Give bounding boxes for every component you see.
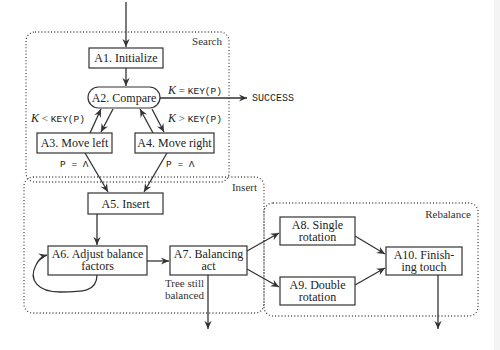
node-a7-balancing-act: A7. Balancing act xyxy=(170,246,247,275)
label-k-greater-key: K > KEY(P) xyxy=(167,111,222,125)
node-a1-label: A1. Initialize xyxy=(94,51,157,65)
node-a1-initialize: A1. Initialize xyxy=(89,48,163,68)
edge-a7-to-a8 xyxy=(247,233,279,251)
node-a6-adjust-balance-factors: A6. Adjust balance factors xyxy=(48,246,147,275)
edge-a2-to-a4 xyxy=(152,109,164,132)
key-p-term: KEY(P) xyxy=(188,114,222,125)
edge-a3-to-a2 xyxy=(90,109,101,133)
node-a9-double-rotation: A9. Double rotation xyxy=(280,277,355,305)
node-a8-single-rotation: A8. Single rotation xyxy=(280,217,355,245)
rebalance-region-label: Rebalance xyxy=(425,208,471,220)
label-k-less-key: K < KEY(P) xyxy=(30,111,85,125)
label-tree-still-balanced-line2: balanced xyxy=(165,289,205,301)
key-p-term: KEY(P) xyxy=(188,86,222,97)
node-a7-label-line2: act xyxy=(202,259,217,273)
node-a3-move-left: A3. Move left xyxy=(37,133,112,153)
avl-insertion-flowchart: Search Insert Rebalance K = KEY(P) SUCCE… xyxy=(0,0,500,350)
node-a2-compare: A2. Compare xyxy=(88,87,160,108)
node-a6-label-line2: factors xyxy=(81,259,114,273)
node-a3-label: A3. Move left xyxy=(41,136,109,150)
label-k-equals-key: K = KEY(P) xyxy=(167,83,222,97)
label-p-null-left: P = Λ xyxy=(60,159,89,170)
edge-a2-to-a3 xyxy=(101,109,113,132)
edge-a4-to-a5 xyxy=(144,153,167,192)
edge-a4-to-a2 xyxy=(140,109,153,133)
success-label: SUCCESS xyxy=(252,93,294,104)
node-a10-label-line2: ing touch xyxy=(402,260,447,274)
label-tree-still-balanced-line1: Tree still xyxy=(165,277,204,289)
node-a5-insert: A5. Insert xyxy=(88,193,163,214)
edge-a7-to-a9 xyxy=(247,269,279,287)
edge-a9-to-a10 xyxy=(355,268,385,285)
node-a8-label-line2: rotation xyxy=(299,230,336,244)
key-p-term: KEY(P) xyxy=(51,114,85,125)
page-edge-shade xyxy=(494,0,500,350)
node-a9-label-line2: rotation xyxy=(299,290,336,304)
node-a4-move-right: A4. Move right xyxy=(135,133,214,153)
equals-operator: = xyxy=(176,84,188,96)
less-than-operator: < xyxy=(39,112,51,124)
label-p-null-right: P = Λ xyxy=(166,159,195,170)
node-a4-label: A4. Move right xyxy=(137,136,212,150)
greater-than-operator: > xyxy=(176,112,188,124)
edge-a8-to-a10 xyxy=(355,236,385,254)
node-a2-label: A2. Compare xyxy=(92,91,157,105)
node-a10-finishing-touch: A10. Finish- ing touch xyxy=(386,247,462,275)
search-region-label: Search xyxy=(192,35,222,47)
node-a5-label: A5. Insert xyxy=(102,197,151,211)
insert-region-label: Insert xyxy=(232,181,257,193)
